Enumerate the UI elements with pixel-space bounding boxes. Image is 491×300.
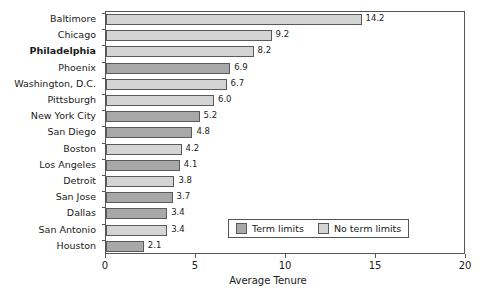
bar xyxy=(106,225,167,236)
y-axis-tick xyxy=(102,175,106,176)
bar-row: 2.1 xyxy=(106,239,464,255)
y-axis-tick xyxy=(102,207,106,208)
x-axis-tick-label: 15 xyxy=(369,259,382,272)
bar-row: 6.9 xyxy=(106,61,464,77)
y-axis-tick xyxy=(102,62,106,63)
x-axis-tick xyxy=(375,254,376,258)
legend-item-no-term-limits: No term limits xyxy=(318,223,401,234)
bar-value-label: 6.9 xyxy=(234,60,248,75)
category-label-pittsburgh: Pittsburgh xyxy=(0,92,100,108)
bar-value-label: 3.7 xyxy=(177,189,191,204)
x-axis-tick xyxy=(105,254,106,258)
x-axis-tick xyxy=(195,254,196,258)
x-axis-tick-label: 20 xyxy=(459,259,472,272)
category-label-boston: Boston xyxy=(0,141,100,157)
category-axis-labels: BaltimoreChicagoPhiladelphiaPhoenixWashi… xyxy=(0,11,100,254)
y-axis-tick xyxy=(102,29,106,30)
bar xyxy=(106,208,167,219)
y-axis-tick xyxy=(102,78,106,79)
bar xyxy=(106,79,227,90)
bar-chart: BaltimoreChicagoPhiladelphiaPhoenixWashi… xyxy=(0,0,491,300)
bar xyxy=(106,160,180,171)
bar xyxy=(106,144,182,155)
y-axis-tick xyxy=(102,224,106,225)
legend-item-term-limits: Term limits xyxy=(236,223,304,234)
bar-value-label: 6.7 xyxy=(231,76,245,91)
bar-row: 8.2 xyxy=(106,44,464,60)
category-label-phoenix: Phoenix xyxy=(0,60,100,76)
category-label-washington-d-c: Washington, D.C. xyxy=(0,76,100,92)
legend-swatch-no-term-limits xyxy=(318,223,329,234)
bar-value-label: 3.8 xyxy=(178,173,192,188)
x-axis-title: Average Tenure xyxy=(0,275,491,286)
bar xyxy=(106,46,254,57)
bar-row: 4.1 xyxy=(106,158,464,174)
y-axis-tick xyxy=(102,126,106,127)
x-axis-tick xyxy=(285,254,286,258)
bar xyxy=(106,241,144,252)
category-label-baltimore: Baltimore xyxy=(0,11,100,27)
legend-label-term-limits: Term limits xyxy=(252,223,304,234)
bar-row: 3.7 xyxy=(106,190,464,206)
bar-row: 6.7 xyxy=(106,77,464,93)
bar-value-label: 2.1 xyxy=(148,238,162,253)
bar xyxy=(106,95,214,106)
bar xyxy=(106,63,230,74)
bar-row: 9.2 xyxy=(106,28,464,44)
bar-value-label: 5.2 xyxy=(204,108,218,123)
legend-swatch-term-limits xyxy=(236,223,247,234)
x-axis-tick-label: 10 xyxy=(279,259,292,272)
bar-value-label: 8.2 xyxy=(258,43,272,58)
bar-value-label: 4.1 xyxy=(184,157,198,172)
y-axis-tick xyxy=(102,159,106,160)
category-label-dallas: Dallas xyxy=(0,205,100,221)
bar-row: 4.8 xyxy=(106,125,464,141)
bar-row: 5.2 xyxy=(106,109,464,125)
bar-value-label: 14.2 xyxy=(366,11,385,26)
y-axis-tick xyxy=(102,94,106,95)
category-label-new-york-city: New York City xyxy=(0,108,100,124)
y-axis-tick xyxy=(102,110,106,111)
bar xyxy=(106,176,174,187)
x-axis-title-text: Average Tenure xyxy=(229,275,307,286)
bar xyxy=(106,14,362,25)
bar-row: 14.2 xyxy=(106,12,464,28)
bar xyxy=(106,192,173,203)
x-axis-tick xyxy=(465,254,466,258)
y-axis-tick xyxy=(102,13,106,14)
bar-value-label: 3.4 xyxy=(171,222,185,237)
x-axis-tick-label: 5 xyxy=(192,259,198,272)
bar-row: 4.2 xyxy=(106,142,464,158)
bar xyxy=(106,30,272,41)
category-label-detroit: Detroit xyxy=(0,173,100,189)
y-axis-tick xyxy=(102,191,106,192)
category-label-san-diego: San Diego xyxy=(0,124,100,140)
legend-label-no-term-limits: No term limits xyxy=(334,223,401,234)
category-label-san-antonio: San Antonio xyxy=(0,222,100,238)
category-label-chicago: Chicago xyxy=(0,27,100,43)
category-label-san-jose: San Jose xyxy=(0,189,100,205)
bar-value-label: 4.2 xyxy=(186,141,200,156)
bar xyxy=(106,127,192,138)
bar-row: 3.8 xyxy=(106,174,464,190)
category-label-houston: Houston xyxy=(0,238,100,254)
category-label-philadelphia: Philadelphia xyxy=(0,43,100,59)
x-axis-tick-label: 0 xyxy=(102,259,108,272)
y-axis-tick xyxy=(102,240,106,241)
y-axis-tick xyxy=(102,143,106,144)
category-label-los-angeles: Los Angeles xyxy=(0,157,100,173)
y-axis-tick xyxy=(102,45,106,46)
bar-value-label: 4.8 xyxy=(196,124,210,139)
bar-value-label: 9.2 xyxy=(276,27,290,42)
bar-row: 6.0 xyxy=(106,93,464,109)
bar xyxy=(106,111,200,122)
legend: Term limits No term limits xyxy=(228,219,409,238)
bar-value-label: 6.0 xyxy=(218,92,232,107)
plot-area: 14.29.28.26.96.76.05.24.84.24.13.83.73.4… xyxy=(105,11,465,254)
bar-value-label: 3.4 xyxy=(171,205,185,220)
